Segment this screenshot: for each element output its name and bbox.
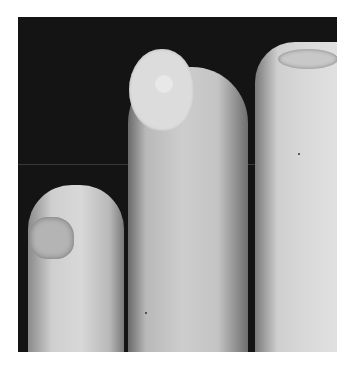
nail-disc <box>129 49 194 131</box>
left-finger <box>28 185 124 352</box>
right-finger <box>255 42 337 352</box>
right-finger-nail <box>278 49 337 69</box>
skin-spot <box>298 153 300 155</box>
clinical-photo <box>18 17 337 352</box>
disc-center <box>155 75 173 93</box>
left-finger-nail <box>30 217 74 259</box>
skin-spot <box>145 312 147 314</box>
